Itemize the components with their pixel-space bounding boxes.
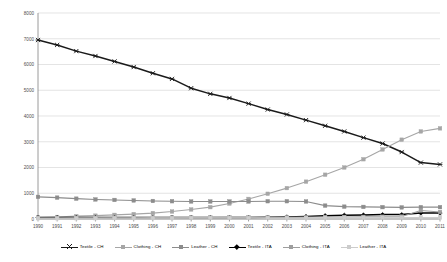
- data-point-marker: [208, 92, 213, 96]
- data-point-marker: [189, 86, 194, 90]
- data-point-marker: [93, 54, 98, 58]
- data-point-marker: [381, 205, 385, 209]
- legend-item[interactable]: Leather - ITA: [341, 243, 387, 252]
- data-point-marker: [304, 200, 308, 204]
- data-point-marker: [323, 124, 328, 128]
- line-chart-plot: 0100020003000400050006000700080001990199…: [0, 0, 447, 262]
- data-point-marker: [265, 107, 270, 111]
- chart-legend: Textile - CHClothing - CHLeather - CHTex…: [0, 238, 447, 256]
- data-point-marker: [304, 216, 308, 220]
- legend-item[interactable]: Clothing - CH: [115, 243, 162, 252]
- x-axis-tick-label: 1995: [129, 224, 140, 229]
- data-point-marker: [323, 216, 327, 220]
- x-axis-tick-label: 2001: [243, 224, 254, 229]
- x-axis-tick-label: 1993: [90, 224, 101, 229]
- data-point-marker: [247, 200, 251, 204]
- y-axis-tick-label: 1000: [24, 191, 35, 196]
- data-point-marker: [438, 127, 442, 131]
- legend-swatch-icon: [61, 243, 78, 252]
- x-axis-tick-label: 2005: [320, 224, 331, 229]
- series-textile-ch: [36, 38, 443, 167]
- data-point-marker: [208, 205, 212, 209]
- data-point-marker: [113, 198, 117, 202]
- legend-item[interactable]: Textile - CH: [61, 243, 104, 252]
- x-axis-tick-label: 1996: [148, 224, 159, 229]
- x-axis-tick-label: 2003: [282, 224, 293, 229]
- data-point-marker: [342, 166, 346, 170]
- series-line: [38, 40, 440, 164]
- data-point-marker: [285, 216, 289, 220]
- data-point-marker: [362, 205, 366, 209]
- data-point-marker: [112, 59, 117, 63]
- legend-item[interactable]: Textile - ITA: [229, 243, 272, 252]
- x-axis-tick-label: 2006: [339, 224, 350, 229]
- series-line: [38, 197, 440, 208]
- legend-label: Clothing - ITA: [302, 244, 330, 250]
- legend-swatch-icon: [341, 243, 358, 252]
- y-axis-tick-label: 6000: [24, 62, 35, 67]
- legend-label: Leather - ITA: [360, 244, 387, 250]
- data-point-marker: [151, 199, 155, 203]
- data-point-marker: [266, 199, 270, 203]
- data-point-marker: [438, 210, 442, 214]
- data-point-marker: [228, 200, 232, 204]
- data-point-marker: [189, 208, 193, 212]
- data-point-marker: [55, 196, 59, 200]
- data-point-marker: [94, 216, 98, 220]
- data-point-marker: [266, 216, 270, 220]
- data-point-marker: [74, 197, 78, 201]
- y-axis-tick-label: 3000: [24, 140, 35, 145]
- data-point-marker: [266, 192, 270, 196]
- legend-swatch-icon: [229, 243, 246, 252]
- legend-item[interactable]: Clothing - ITA: [283, 243, 330, 252]
- data-point-marker: [400, 138, 404, 142]
- data-point-marker: [74, 216, 78, 220]
- data-point-marker: [304, 180, 308, 184]
- data-point-marker: [400, 206, 404, 210]
- x-axis-tick-label: 1998: [186, 224, 197, 229]
- data-point-marker: [285, 186, 289, 190]
- data-point-marker: [55, 216, 59, 220]
- data-point-marker: [208, 200, 212, 204]
- data-point-marker: [170, 77, 175, 81]
- data-point-marker: [74, 49, 79, 53]
- x-axis-tick-label: 1999: [205, 224, 216, 229]
- x-axis-tick-label: 2000: [224, 224, 235, 229]
- series-leather-ch: [36, 195, 442, 209]
- data-point-marker: [399, 150, 404, 154]
- data-point-marker: [170, 216, 174, 220]
- legend-marker-icon: [67, 244, 72, 249]
- y-axis-tick-label: 0: [31, 217, 34, 222]
- x-axis-tick-label: 2009: [397, 224, 408, 229]
- y-axis-tick-label: 2000: [24, 165, 35, 170]
- data-point-marker: [170, 199, 174, 203]
- data-point-marker: [323, 204, 327, 208]
- data-point-marker: [419, 130, 423, 134]
- data-point-marker: [189, 216, 193, 220]
- legend-item[interactable]: Leather - CH: [172, 243, 217, 252]
- data-point-marker: [285, 199, 289, 203]
- data-point-marker: [94, 198, 98, 202]
- x-axis-tick-label: 1994: [109, 224, 120, 229]
- data-point-marker: [438, 205, 442, 209]
- data-point-marker: [323, 173, 327, 177]
- data-point-marker: [36, 195, 40, 199]
- data-point-marker: [438, 216, 442, 220]
- legend-label: Leather - CH: [191, 244, 217, 250]
- legend-label: Clothing - CH: [134, 244, 162, 250]
- y-axis-tick-label: 7000: [24, 37, 35, 42]
- data-point-marker: [132, 216, 136, 220]
- data-point-marker: [246, 102, 251, 106]
- x-axis-tick-label: 2007: [358, 224, 369, 229]
- data-point-marker: [342, 205, 346, 209]
- y-axis-tick-label: 5000: [24, 88, 35, 93]
- data-point-marker: [419, 205, 423, 209]
- data-point-marker: [419, 216, 423, 220]
- x-axis-tick-label: 1991: [52, 224, 63, 229]
- data-point-marker: [304, 118, 309, 122]
- legend-marker-icon: [347, 245, 351, 249]
- data-point-marker: [342, 216, 346, 220]
- data-point-marker: [247, 216, 251, 220]
- legend-marker-icon: [289, 245, 293, 249]
- data-point-marker: [132, 199, 136, 203]
